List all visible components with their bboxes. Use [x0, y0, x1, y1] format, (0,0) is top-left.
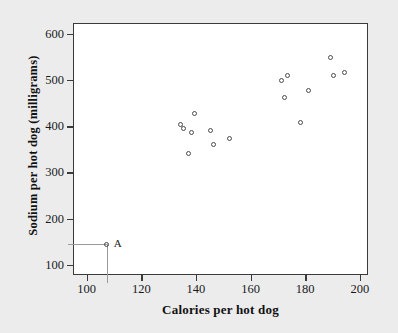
data-point [227, 136, 232, 141]
y-tick-label: 600 [45, 27, 64, 40]
scatter-plot-figure: 100200300400500600 100120140160180200 A … [0, 0, 398, 333]
data-point-label: A [114, 238, 122, 249]
plot-area: A [74, 24, 367, 274]
x-tick-mark [360, 275, 361, 281]
data-point [342, 70, 347, 75]
annotation-guide-vertical [107, 244, 108, 283]
x-tick-label: 140 [187, 283, 206, 296]
data-point [192, 111, 197, 116]
y-tick-label: 400 [45, 120, 64, 133]
x-tick-label: 200 [350, 283, 369, 296]
data-point [328, 55, 333, 60]
y-tick-label: 300 [45, 166, 64, 179]
data-point [282, 95, 287, 100]
data-point [279, 78, 284, 83]
x-tick-mark [251, 275, 252, 281]
data-point [211, 142, 216, 147]
x-axis-title: Calories per hot dog [73, 302, 368, 318]
x-tick-label: 180 [296, 283, 315, 296]
data-point [208, 128, 213, 133]
y-tick-label: 500 [45, 74, 64, 87]
data-point [331, 73, 336, 78]
data-point [298, 120, 303, 125]
data-point [189, 130, 194, 135]
data-point [181, 126, 186, 131]
x-tick-mark [141, 275, 142, 281]
x-tick-label: 100 [77, 283, 96, 296]
x-tick-mark [196, 275, 197, 281]
data-point [186, 151, 191, 156]
plot-frame: A [73, 23, 368, 275]
y-axis-title: Sodium per hot dog (milligrams) [26, 20, 41, 272]
data-point [306, 88, 311, 93]
annotation-guide-horizontal [68, 244, 107, 245]
y-tick-label: 100 [45, 259, 64, 272]
x-tick-mark [87, 275, 88, 281]
data-point [104, 242, 109, 247]
y-tick-label: 200 [45, 212, 64, 225]
x-tick-label: 120 [132, 283, 151, 296]
data-point [285, 73, 290, 78]
x-tick-label: 160 [241, 283, 260, 296]
x-tick-mark [305, 275, 306, 281]
